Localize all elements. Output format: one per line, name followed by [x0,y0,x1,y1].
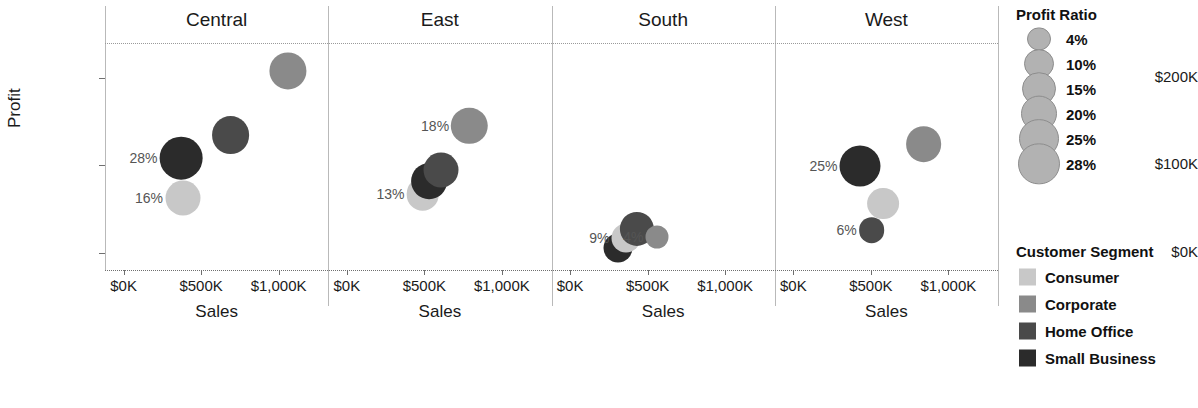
x-axis-tick-label: $500K [403,277,446,294]
profit-ratio-legend-item[interactable]: 10% [1016,51,1097,76]
x-axis-tick-label: $1,000K [251,277,307,294]
data-point-label: 13% [376,186,404,202]
panel-title-south: South [552,6,775,37]
profit-ratio-legend: Profit Ratio 4%10%15%20%25%28% [1016,6,1097,176]
profit-ratio-legend-label: 10% [1066,55,1096,72]
data-point-bubble[interactable] [840,146,881,187]
customer-segment-legend-item[interactable]: Home Office [1016,317,1154,344]
customer-segment-label: Small Business [1045,349,1156,366]
x-axis-title: Sales [642,302,685,322]
data-point-bubble[interactable] [451,108,487,144]
data-point-bubble[interactable] [212,116,250,154]
profit-ratio-legend-bubble [1018,143,1059,184]
customer-segment-label: Home Office [1045,322,1133,339]
customer-segment-legend-item[interactable]: Consumer [1016,263,1154,290]
plot-right-border [998,6,999,306]
x-axis-tick-label: $0K [333,277,360,294]
customer-segment-swatch [1019,268,1036,285]
x-axis-tick-mark [279,270,280,275]
y-axis-tick-label: $200K [1103,68,1198,85]
data-point-bubble[interactable] [269,52,306,89]
profit-ratio-legend-label: 20% [1066,105,1096,122]
x-axis-tick-mark [648,270,649,275]
x-axis-title: Sales [865,302,908,322]
profit-ratio-legend-label: 25% [1066,130,1096,147]
customer-segment-legend-item[interactable]: Small Business [1016,344,1154,371]
panel-title-central: Central [105,6,328,37]
customer-segment-swatch [1019,349,1036,366]
customer-segment-label: Consumer [1045,268,1119,285]
data-point-label: 18% [421,118,449,134]
x-axis-tick-label: $1,000K [920,277,976,294]
profit-ratio-legend-title: Profit Ratio [1016,6,1097,23]
customer-segment-legend-title: Customer Segment [1016,243,1154,260]
x-axis-tick-label: $0K [110,277,137,294]
x-axis-tick-mark [124,270,125,275]
x-axis-tick-mark [793,270,794,275]
data-point-bubble[interactable] [165,180,200,215]
x-axis-tick-label: $1,000K [697,277,753,294]
x-axis-tick-label: $0K [780,277,807,294]
data-point-label: 4% [623,229,643,245]
data-point-bubble[interactable] [859,217,885,243]
customer-segment-swatch [1019,322,1036,339]
plot-area: 16%28%13%18%9%4%25%6% [105,43,998,270]
y-axis-tick-label: $100K [1103,155,1198,172]
profit-ratio-legend-label: 15% [1066,80,1096,97]
x-axis-title: Sales [419,302,462,322]
data-point-label: 9% [589,230,609,246]
x-axis-tick-mark [570,270,571,275]
x-axis-tick-mark [871,270,872,275]
data-point-bubble[interactable] [867,188,899,220]
customer-segment-swatch [1019,295,1036,312]
profit-ratio-legend-item[interactable]: 28% [1016,151,1097,176]
profit-ratio-legend-bubble [1027,27,1050,50]
data-point-label: 6% [837,222,857,238]
data-point-bubble[interactable] [906,126,942,162]
panel-title-west: West [775,6,998,37]
data-point-bubble[interactable] [423,153,458,188]
x-axis-tick-mark [201,270,202,275]
customer-segment-legend: Customer Segment ConsumerCorporateHome O… [1016,243,1154,371]
chart-root: Profit $0K$100K$200K CentralEastSouthWes… [0,0,1198,408]
data-point-bubble[interactable] [645,225,668,248]
x-axis-tick-mark [347,270,348,275]
y-axis-title: Profit [5,88,25,128]
profit-ratio-legend-item[interactable]: 4% [1016,26,1097,51]
data-point-bubble[interactable] [160,137,203,180]
x-axis-tick-label: $500K [179,277,222,294]
data-point-label: 28% [130,150,158,166]
x-axis-tick-mark [502,270,503,275]
plot-bottom-axis [105,270,998,271]
profit-ratio-legend-label: 4% [1066,30,1088,47]
panel-title-east: East [328,6,551,37]
x-axis-tick-label: $0K [557,277,584,294]
x-axis-tick-label: $500K [849,277,892,294]
x-axis-tick-label: $1,000K [474,277,530,294]
x-axis-tick-mark [424,270,425,275]
x-axis-tick-mark [948,270,949,275]
data-point-label: 25% [809,158,837,174]
customer-segment-label: Corporate [1045,295,1117,312]
data-point-label: 16% [135,190,163,206]
x-axis-title: Sales [195,302,238,322]
x-axis-tick-mark [725,270,726,275]
x-axis-tick-label: $500K [626,277,669,294]
profit-ratio-legend-label: 28% [1066,155,1096,172]
customer-segment-legend-item[interactable]: Corporate [1016,290,1154,317]
